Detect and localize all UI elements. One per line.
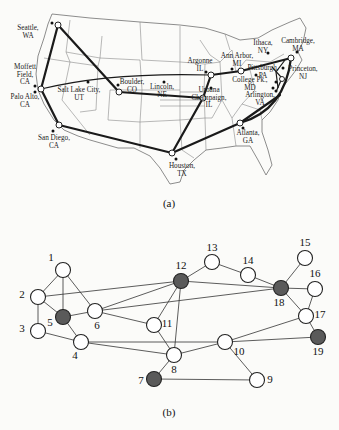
node-circle xyxy=(56,310,71,325)
node-circle xyxy=(274,281,289,296)
node-circle xyxy=(205,255,220,270)
node-label: 17 xyxy=(315,308,327,320)
city-label-saltlake: Salt Lake City,UT xyxy=(58,86,101,102)
node-circle xyxy=(241,268,256,283)
edge-7-9 xyxy=(154,379,257,380)
graph-node-15: 15 xyxy=(298,236,313,266)
graph-node-7: 7 xyxy=(138,372,161,387)
node-circle xyxy=(31,324,46,339)
caption-b: (b) xyxy=(163,406,176,419)
node-circle xyxy=(174,274,189,289)
city-label-ithaca: Ithaca,NY xyxy=(253,39,273,55)
node-circle xyxy=(298,251,313,266)
edge-6-18 xyxy=(95,288,281,311)
graph-node-8: 8 xyxy=(167,348,182,375)
graph-node-17: 17 xyxy=(299,308,327,324)
graph-node-9: 9 xyxy=(250,373,274,388)
node-label: 7 xyxy=(138,374,144,386)
caption-a: (a) xyxy=(163,197,176,210)
city-label-atlanta: Atlanta,GA xyxy=(237,129,260,145)
node-label: 13 xyxy=(207,241,219,253)
graph-node-18: 18 xyxy=(274,281,289,308)
node-label: 6 xyxy=(94,319,100,331)
node-label: 3 xyxy=(19,322,25,334)
node-circle xyxy=(308,282,323,297)
node-label: 16 xyxy=(310,267,322,279)
graph-node-10: 10 xyxy=(218,335,246,357)
graph-node-1: 1 xyxy=(48,251,70,278)
node-circle xyxy=(299,309,314,324)
graph-node-14: 14 xyxy=(241,254,256,283)
graph-node-19: 19 xyxy=(311,330,326,357)
node-label: 4 xyxy=(72,349,78,361)
node-circle xyxy=(167,348,182,363)
edge-4-8 xyxy=(81,342,174,355)
node-circle xyxy=(147,372,162,387)
node-label: 11 xyxy=(162,317,173,329)
city-label-princeton: Princeton,NJ xyxy=(288,65,318,81)
graph-node-2: 2 xyxy=(19,288,45,305)
city-label-paloalto: Palo Alto,CA xyxy=(11,93,40,109)
graph-node-4: 4 xyxy=(72,335,88,361)
city-label-cambridge: Cambridge,MA xyxy=(281,37,315,53)
city-label-sandiego: San Diego,CA xyxy=(38,134,70,150)
node-circle xyxy=(147,318,162,333)
city-label-houston: Houston,TX xyxy=(169,162,195,178)
graph-nodes: 12345678910111213141516171819 xyxy=(19,236,326,388)
city-label-collegepark: College Pk.,MD xyxy=(232,76,268,92)
figure-canvas: Seattle,WAMoffettField,CAPalo Alto,CASal… xyxy=(0,0,339,430)
graph-node-11: 11 xyxy=(147,317,173,333)
node-circle xyxy=(31,290,46,305)
graph-node-13: 13 xyxy=(205,241,220,270)
graph-node-5: 5 xyxy=(47,310,70,328)
city-label-argonne: ArgonneIL xyxy=(187,57,212,73)
edge-12-8 xyxy=(174,281,181,355)
node-label: 10 xyxy=(234,345,246,357)
node-label: 15 xyxy=(300,236,312,248)
edge-6-11 xyxy=(95,311,154,325)
node-circle xyxy=(218,335,233,350)
node-circle xyxy=(311,330,326,345)
node-label: 19 xyxy=(313,345,325,357)
node-label: 8 xyxy=(171,363,177,375)
node-label: 18 xyxy=(274,296,286,308)
city-label-boulder: Boulder,CO xyxy=(120,78,145,94)
node-label: 9 xyxy=(267,373,273,385)
graph-node-16: 16 xyxy=(308,267,323,297)
city-label-seattle: Seattle,WA xyxy=(17,24,39,40)
node-label: 14 xyxy=(243,254,255,266)
graph-node-3: 3 xyxy=(19,322,45,339)
graph-node-6: 6 xyxy=(88,304,103,331)
node-circle xyxy=(88,304,103,319)
city-label-moffett: MoffettField,CA xyxy=(14,63,36,86)
node-circle xyxy=(74,335,89,350)
node-circle xyxy=(56,263,71,278)
graph-node-12: 12 xyxy=(174,259,189,289)
node-circle xyxy=(250,373,265,388)
node-label: 12 xyxy=(176,259,187,271)
node-label: 1 xyxy=(48,251,54,263)
node-label: 5 xyxy=(47,316,53,328)
edge-2-12 xyxy=(38,281,181,297)
node-label: 2 xyxy=(19,288,25,300)
